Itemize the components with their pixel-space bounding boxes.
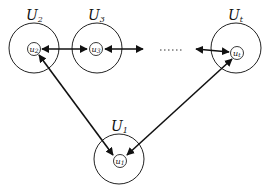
edge-u1-u2	[39, 55, 113, 155]
node-label-u3: u3	[92, 45, 101, 54]
node-label-ut: ut	[233, 49, 241, 58]
edge-ellipsis-ut	[196, 49, 229, 52]
group-u1: U1 u1	[94, 118, 144, 184]
group-label-u1: U1	[111, 118, 128, 135]
node-label-u2: u2	[30, 45, 39, 54]
group-u2: U2 u2	[9, 7, 59, 73]
diagram-canvas: U2 u2 U3 u3 Ut ut U1 u1	[0, 0, 273, 189]
edge-u1-ut	[127, 59, 232, 155]
group-label-u3: U3	[88, 7, 105, 24]
group-u3: U3 u3	[72, 7, 122, 73]
group-label-u2: U2	[26, 7, 43, 24]
group-ut: Ut ut	[211, 7, 261, 73]
node-label-u1: u1	[116, 157, 125, 166]
group-label-ut: Ut	[228, 7, 244, 24]
